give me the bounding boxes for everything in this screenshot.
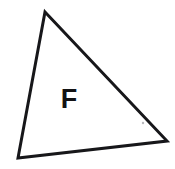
triangle-shape	[18, 12, 167, 158]
figure-canvas: F	[0, 0, 175, 169]
triangle-label-f: F	[61, 84, 78, 114]
speck-artifact	[142, 122, 144, 124]
triangle-figure-svg: F	[0, 0, 175, 169]
